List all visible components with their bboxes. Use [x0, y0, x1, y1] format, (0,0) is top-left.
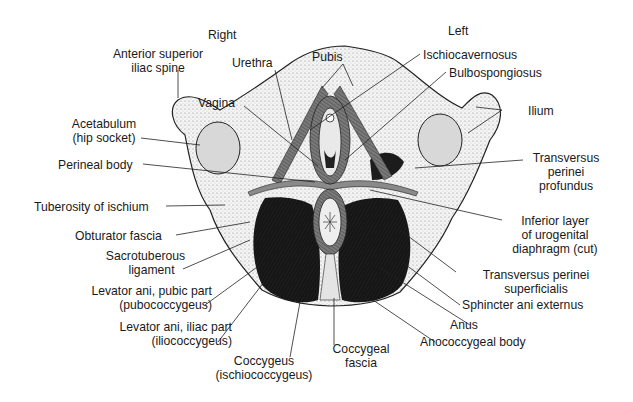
label-levator-ani-pubic: Levator ani, pubic part (pubococcygeus): [72, 284, 212, 312]
left-acetabulum: [418, 114, 462, 166]
pelvic-floor-diagram: Right Left Anterior superior iliac spine…: [0, 0, 633, 402]
orientation-left: Left: [448, 24, 468, 38]
label-inferior-layer-urogenital-diaphragm: Inferior layer of urogenital diaphragm (…: [500, 214, 610, 256]
label-bulbospongiosus: Bulbospongiosus: [449, 66, 542, 80]
label-perineal-body: Perineal body: [58, 158, 133, 172]
label-ilium: Ilium: [528, 104, 554, 118]
label-vagina: Vagina: [198, 96, 235, 110]
label-sacrotuberous-ligament: Sacrotuberous ligament: [98, 249, 193, 277]
label-levator-ani-iliac: Levator ani, iliac part (iliococcygeus): [92, 320, 232, 348]
levator-ani-left: [338, 198, 410, 302]
label-tuberosity-of-ischium: Tuberosity of ischium: [34, 200, 149, 214]
label-acetabulum: Acetabulum (hip socket): [64, 117, 144, 145]
label-transversus-perinei-profundus: Transversus perinei profundus: [526, 151, 606, 193]
label-coccygeus: Coccygeus (ischiococcygeus): [208, 354, 320, 382]
label-anterior-superior-iliac-spine: Anterior superior iliac spine: [104, 47, 212, 75]
right-acetabulum: [196, 122, 240, 174]
label-urethra: Urethra: [232, 56, 273, 70]
label-obturator-fascia: Obturator fascia: [75, 229, 162, 243]
label-coccygeal-fascia: Coccygeal fascia: [326, 342, 396, 370]
label-anus: Anus: [450, 318, 478, 332]
label-transversus-perinei-superficialis: Transversus perinei superficialis: [470, 268, 602, 296]
label-ischiocavernosus: Ischiocavernosus: [423, 48, 517, 62]
label-sphincter-ani-externus: Sphincter ani externus: [462, 298, 583, 312]
orientation-right: Right: [208, 28, 236, 42]
label-anococcygeal-body: Anococcygeal body: [420, 335, 526, 349]
label-pubis: Pubis: [312, 50, 343, 64]
